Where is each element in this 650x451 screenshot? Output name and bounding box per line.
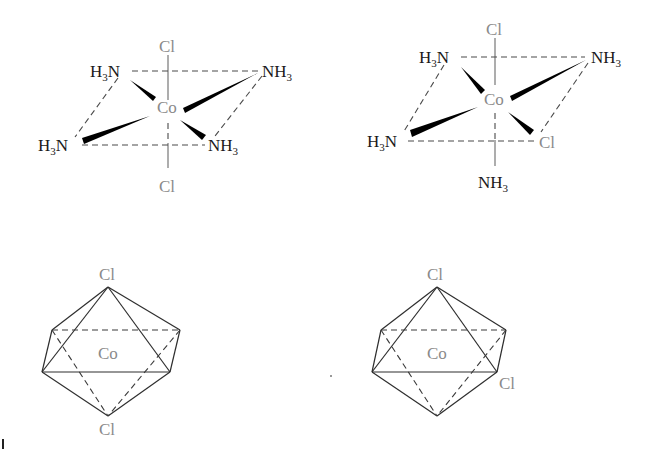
cis-oct-cl-front-right: Cl — [499, 374, 515, 393]
trans-nh3-front-right: NH3 — [208, 136, 239, 157]
eq-edge-right — [215, 76, 262, 136]
wedge-bond-back-right — [183, 73, 258, 113]
cis-nh3-back-right: NH3 — [591, 48, 622, 69]
cis-wedge-structure: Cl Co Cl H3N NH3 H3N NH3 — [367, 20, 622, 194]
trans-octahedron: Cl Co Cl — [42, 265, 180, 439]
cis-octahedron: Cl Co Cl — [372, 265, 515, 416]
cis-oct-co: Co — [427, 344, 447, 363]
cis-h3n-back-left: H3N — [419, 48, 449, 69]
edge — [497, 330, 506, 372]
isomer-diagram: Cl Co Cl H3N NH3 H3N NH3 Cl Co Cl H3N NH… — [0, 0, 650, 451]
wedge-bond-front-left — [82, 116, 150, 144]
trans-oct-cl-top: Cl — [99, 265, 115, 284]
edge — [372, 372, 437, 416]
edge — [170, 330, 180, 372]
cis-cl-front-right: Cl — [539, 133, 555, 152]
eq-edge-left — [75, 78, 118, 137]
cis-nh3-bottom: NH3 — [478, 173, 509, 194]
edge — [437, 287, 506, 330]
hidden-edge — [52, 330, 108, 416]
stray-dot — [330, 375, 332, 377]
wedge-bond-back-left — [461, 67, 485, 94]
trans-h3n-front-left: H3N — [38, 136, 68, 157]
trans-oct-co: Co — [98, 344, 118, 363]
trans-cl-bottom: Cl — [159, 177, 175, 196]
wedge-bond-front-right — [508, 112, 534, 135]
trans-wedge-structure: Cl Co Cl H3N NH3 H3N NH3 — [38, 37, 293, 196]
cis-co: Co — [484, 90, 504, 109]
trans-nh3-back-right: NH3 — [262, 62, 293, 83]
trans-co: Co — [157, 98, 177, 117]
wedge-bond-back-left — [130, 80, 156, 101]
trans-oct-cl-bottom: Cl — [99, 420, 115, 439]
edge — [108, 287, 180, 330]
wedge-bond-back-right — [510, 60, 586, 101]
hidden-edge — [381, 330, 437, 416]
trans-h3n-back-left: H3N — [90, 62, 120, 83]
edge — [42, 372, 108, 416]
stray-mark — [2, 439, 4, 449]
trans-cl-top: Cl — [159, 37, 175, 56]
cis-cl-top: Cl — [486, 20, 502, 39]
cis-h3n-front-left: H3N — [367, 132, 397, 153]
eq-edge-right — [541, 63, 588, 132]
wedge-bond-front-right — [180, 120, 206, 140]
wedge-bond-front-left — [410, 107, 478, 137]
cis-oct-cl-top: Cl — [427, 265, 443, 284]
